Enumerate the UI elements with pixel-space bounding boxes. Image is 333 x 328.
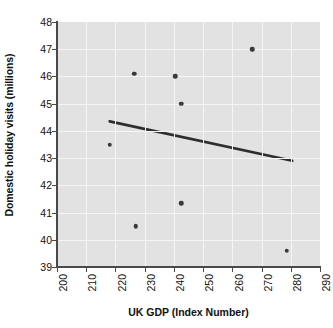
data-point [107,142,112,147]
gridline-horizontal [57,131,320,132]
gridline-horizontal [57,76,320,77]
y-tick-label: 47 [20,43,52,55]
x-tick-mark [115,267,116,272]
y-tick-mark [52,104,57,105]
y-tick-label: 48 [20,16,52,28]
y-axis-spine [56,21,58,268]
x-axis-title: UK GDP (Index Number) [57,306,320,318]
gridline-vertical [291,22,292,267]
plot-area [57,22,320,267]
y-tick-label: 40 [20,234,52,246]
data-point [285,248,290,253]
gridline-vertical [174,22,175,267]
gridline-horizontal [57,158,320,159]
y-tick-label: 46 [20,70,52,82]
gridline-vertical [232,22,233,267]
y-axis-title-text: Domestic holiday visits (millions) [3,54,15,217]
y-tick-label: 43 [20,152,52,164]
scatter-chart: Domestic holiday visits (millions) 39404… [0,0,333,328]
x-axis-tick-labels: 200210220230240250260270280290 [57,272,320,306]
x-axis-spine [56,266,321,268]
y-tick-mark [52,213,57,214]
x-tick-mark [203,267,204,272]
y-tick-mark [52,158,57,159]
x-tick-label: 290 [303,272,333,306]
gridline-vertical [86,22,87,267]
y-tick-mark [52,131,57,132]
x-tick-mark [174,267,175,272]
data-point [250,47,255,52]
y-tick-label: 44 [20,125,52,137]
trend-line [57,22,320,267]
gridline-horizontal [57,185,320,186]
x-tick-mark [57,267,58,272]
gridline-horizontal [57,49,320,50]
gridline-horizontal [57,240,320,241]
gridline-horizontal [57,104,320,105]
x-tick-mark [320,267,321,272]
x-tick-mark [291,267,292,272]
y-tick-mark [52,22,57,23]
gridline-vertical [145,22,146,267]
y-tick-mark [52,240,57,241]
y-tick-label: 41 [20,207,52,219]
data-point [134,224,139,229]
y-tick-mark [52,49,57,50]
data-point [173,74,178,79]
y-tick-label: 42 [20,179,52,191]
gridline-vertical [262,22,263,267]
data-point [179,201,184,206]
y-tick-label: 45 [20,98,52,110]
x-tick-mark [232,267,233,272]
data-point [179,101,184,106]
gridline-horizontal [57,213,320,214]
x-tick-mark [86,267,87,272]
y-tick-mark [52,185,57,186]
gridline-vertical [115,22,116,267]
x-tick-mark [145,267,146,272]
y-axis-title: Domestic holiday visits (millions) [0,0,18,270]
data-point [132,71,137,76]
gridline-vertical [203,22,204,267]
y-axis-tick-labels: 39404142434445464748 [20,22,52,267]
y-tick-mark [52,76,57,77]
x-tick-mark [262,267,263,272]
